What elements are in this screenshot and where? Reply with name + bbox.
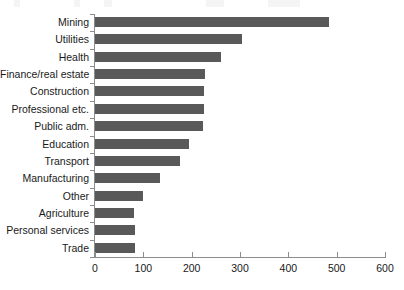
x-axis-tick-label: 300: [220, 262, 260, 274]
bar: [95, 173, 160, 183]
y-axis-label: Utilities: [0, 31, 89, 48]
bar-row: [95, 222, 385, 239]
cropped-title-artifact: [0, 0, 404, 7]
y-axis-label: Personal services: [0, 222, 89, 239]
y-axis-label: Construction: [0, 83, 89, 100]
plot-area: [95, 14, 385, 257]
bar: [95, 17, 329, 27]
x-axis-tick-label: 200: [172, 262, 212, 274]
y-axis-label: Agriculture: [0, 205, 89, 222]
bar: [95, 191, 143, 201]
y-axis-label: Education: [0, 136, 89, 153]
x-axis-tick: [143, 252, 144, 258]
x-axis-tick-label: 400: [268, 262, 308, 274]
bar: [95, 156, 180, 166]
y-axis-label: Mining: [0, 14, 89, 31]
x-axis-tick: [288, 252, 289, 258]
bar-row: [95, 31, 385, 48]
bar: [95, 104, 204, 114]
bar-row: [95, 153, 385, 170]
x-axis-tick: [337, 252, 338, 258]
bar: [95, 208, 134, 218]
y-axis-labels: MiningUtilitiesHealthFinance/real estate…: [0, 14, 89, 257]
bar: [95, 34, 242, 44]
bar-row: [95, 118, 385, 135]
bar: [95, 69, 205, 79]
bar: [95, 243, 135, 253]
bar: [95, 121, 203, 131]
y-axis-label: Other: [0, 188, 89, 205]
x-axis-tick-label: 500: [317, 262, 357, 274]
y-axis-label: Finance/real estate: [0, 66, 89, 83]
bar-row: [95, 188, 385, 205]
x-axis-tick: [95, 252, 96, 258]
bar-row: [95, 170, 385, 187]
x-axis-tick: [385, 252, 386, 258]
x-axis-tick: [240, 252, 241, 258]
bar: [95, 225, 135, 235]
bar: [95, 52, 221, 62]
y-axis-label: Professional etc.: [0, 101, 89, 118]
x-axis-tick-label: 600: [365, 262, 404, 274]
x-axis-tick: [192, 252, 193, 258]
bar-row: [95, 205, 385, 222]
bar-row: [95, 101, 385, 118]
bar: [95, 139, 189, 149]
bar: [95, 86, 204, 96]
y-axis-label: Health: [0, 49, 89, 66]
bar-row: [95, 49, 385, 66]
bar-row: [95, 83, 385, 100]
x-axis-tick-label: 100: [123, 262, 163, 274]
bar-chart: MiningUtilitiesHealthFinance/real estate…: [0, 0, 404, 290]
x-axis-tick-label: 0: [75, 262, 115, 274]
bar-row: [95, 136, 385, 153]
bar-row: [95, 14, 385, 31]
bar-row: [95, 66, 385, 83]
y-axis-label: Manufacturing: [0, 170, 89, 187]
y-axis-label: Transport: [0, 153, 89, 170]
y-axis-label: Public adm.: [0, 118, 89, 135]
y-axis-label: Trade: [0, 240, 89, 257]
